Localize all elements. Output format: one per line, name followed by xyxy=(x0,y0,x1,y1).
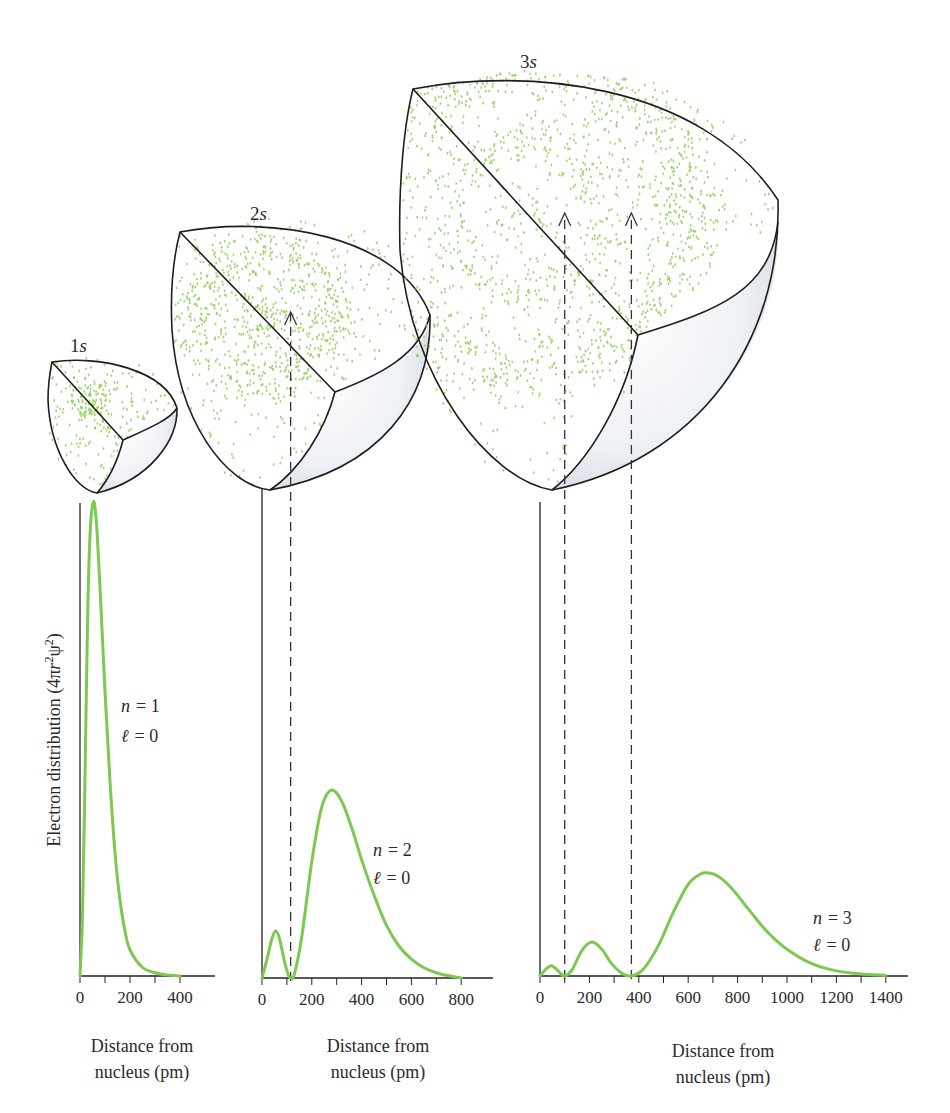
svg-text:n= 1: n= 1 xyxy=(121,696,160,716)
distribution-curve-2 xyxy=(262,790,461,979)
orbital-3s-outline xyxy=(400,81,778,490)
orbital-1s: 1s xyxy=(48,335,177,493)
x-tick-label: 200 xyxy=(577,988,603,1007)
y-axis-label: Electron distribution (4πr2ψ2) xyxy=(42,633,65,846)
svg-text:Distance from: Distance from xyxy=(672,1041,774,1061)
orbital-3s-shell xyxy=(552,222,778,490)
orbital-2s: 2s xyxy=(171,203,430,490)
x-tick-label: 1000 xyxy=(770,988,804,1007)
svg-text:Distance from: Distance from xyxy=(327,1036,429,1056)
annotation-n3: n= 3 ℓ= 0 xyxy=(813,908,852,955)
orbital-2s-density-dots xyxy=(174,217,421,478)
svg-text:n= 3: n= 3 xyxy=(813,908,852,928)
x-axis-label-1: Distance from nucleus (pm) xyxy=(91,1036,193,1083)
svg-text:ℓ= 0: ℓ= 0 xyxy=(373,868,410,888)
orbital-figure: 1s 2s 3s 0200400020040060080002004006008… xyxy=(0,0,950,1113)
x-tick-label: 400 xyxy=(349,990,375,1009)
x-tick-label: 400 xyxy=(167,988,193,1007)
x-tick-label: 800 xyxy=(725,988,751,1007)
x-axis-label-3: Distance from nucleus (pm) xyxy=(672,1041,774,1088)
x-tick-label: 1200 xyxy=(819,988,853,1007)
orbital-1s-shell xyxy=(97,408,177,493)
x-tick-label: 400 xyxy=(626,988,652,1007)
svg-text:nucleus (pm): nucleus (pm) xyxy=(331,1062,425,1083)
orbital-3s-density-dots xyxy=(402,70,773,483)
x-tick-label: 200 xyxy=(117,988,143,1007)
chart-1: 0200400 xyxy=(76,502,215,1007)
x-tick-label: 600 xyxy=(399,990,425,1009)
orbital-1s-density-dots xyxy=(49,357,175,486)
x-tick-label: 0 xyxy=(258,990,267,1009)
x-tick-label: 800 xyxy=(448,990,474,1009)
svg-text:nucleus (pm): nucleus (pm) xyxy=(95,1062,189,1083)
svg-text:ℓ= 0: ℓ= 0 xyxy=(813,935,850,955)
svg-text:Distance from: Distance from xyxy=(91,1036,193,1056)
orbital-label-1s: 1s xyxy=(70,335,87,356)
svg-text:ℓ= 0: ℓ= 0 xyxy=(121,726,158,746)
orbital-label-3s: 3s xyxy=(520,51,537,72)
distribution-curve-1 xyxy=(80,502,180,976)
svg-text:n= 2: n= 2 xyxy=(373,840,412,860)
x-tick-label: 0 xyxy=(536,988,545,1007)
annotation-n2: n= 2 ℓ= 0 xyxy=(373,840,412,888)
orbital-3s: 3s xyxy=(400,51,778,490)
orbital-label-2s: 2s xyxy=(250,203,267,224)
radial-distribution-charts: 0200400020040060080002004006008001000120… xyxy=(76,213,908,1009)
annotation-n1: n= 1 ℓ= 0 xyxy=(121,696,160,746)
svg-text:nucleus (pm): nucleus (pm) xyxy=(676,1067,770,1088)
x-tick-label: 0 xyxy=(76,988,85,1007)
x-tick-label: 600 xyxy=(675,988,701,1007)
orbital-2s-shell xyxy=(270,327,428,490)
x-tick-label: 1400 xyxy=(869,988,903,1007)
x-axis-label-2: Distance from nucleus (pm) xyxy=(327,1036,429,1083)
x-tick-label: 200 xyxy=(299,990,325,1009)
orbital-2s-cut-edge xyxy=(180,232,430,490)
